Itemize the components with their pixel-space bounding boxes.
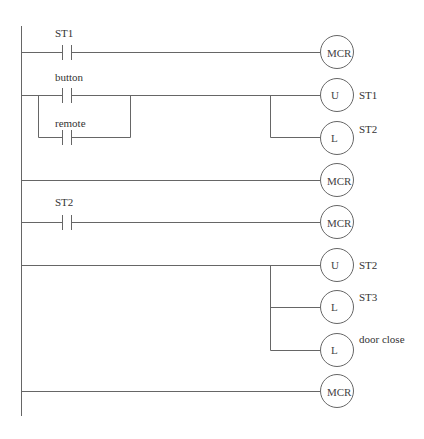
rung-5 <box>21 249 354 367</box>
coil-l-door-close: L <box>331 344 338 356</box>
coil-l-st2: L <box>331 132 338 144</box>
contact-label-st1: ST1 <box>55 27 73 39</box>
coil-u-st2: U <box>331 259 339 271</box>
ladder-diagram: ST1 button remote ST2 MCR U L MCR MCR U … <box>0 0 424 439</box>
coil-tag-st3: ST3 <box>359 291 378 303</box>
coil-tag-st1: ST1 <box>359 89 377 101</box>
coil-mcr-2: MCR <box>327 175 352 187</box>
coil-tag-st2-unlatch: ST2 <box>359 259 377 271</box>
coil-mcr-3: MCR <box>327 217 352 229</box>
rung-6 <box>21 375 354 408</box>
coil-l-st3: L <box>331 301 338 313</box>
coil-mcr-1: MCR <box>327 47 352 59</box>
contact-label-st2: ST2 <box>55 196 73 208</box>
rung-4 <box>21 206 354 239</box>
contact-label-button: button <box>55 71 84 83</box>
contact-label-remote: remote <box>55 117 86 129</box>
coil-tag-st2: ST2 <box>359 123 377 135</box>
coil-tag-door-close: door close <box>359 333 405 345</box>
coil-u-st1: U <box>331 89 339 101</box>
rung-3 <box>21 164 354 197</box>
coil-mcr-4: MCR <box>327 386 352 398</box>
rung-1 <box>21 36 354 69</box>
